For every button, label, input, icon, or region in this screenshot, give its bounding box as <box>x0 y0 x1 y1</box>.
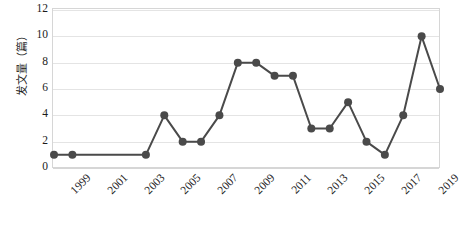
data-point-marker <box>215 111 223 119</box>
x-tick-label: 2009 <box>253 172 277 196</box>
plot-area <box>52 8 440 168</box>
data-point-marker <box>197 138 205 146</box>
x-tick-label: 2015 <box>363 172 387 196</box>
x-axis-tick-labels: 1999200120032005200720092011201320152017… <box>52 168 440 224</box>
y-tick-label: 8 <box>22 56 48 68</box>
x-tick-label: 2017 <box>400 172 424 196</box>
data-point-marker <box>326 125 334 133</box>
data-point-marker <box>234 59 242 67</box>
y-tick-label: 4 <box>22 109 48 121</box>
x-tick-label: 2005 <box>179 172 203 196</box>
y-tick-label: 2 <box>22 135 48 147</box>
y-tick-label: 10 <box>22 30 48 42</box>
data-point-marker <box>399 111 407 119</box>
x-tick-label: 2013 <box>326 172 350 196</box>
data-point-marker <box>68 151 76 159</box>
y-tick-label: 0 <box>22 161 48 173</box>
data-point-marker <box>271 72 279 80</box>
line-chart: 发文量（篇） 024681012 19992001200320052007200… <box>0 0 470 225</box>
x-tick-label: 2001 <box>105 172 129 196</box>
data-point-marker <box>289 72 297 80</box>
x-tick-label: 1999 <box>69 172 93 196</box>
x-tick-label: 2019 <box>436 172 460 196</box>
data-point-marker <box>252 59 260 67</box>
x-tick-label: 2007 <box>216 172 240 196</box>
series-polyline <box>54 36 440 154</box>
data-point-marker <box>418 32 426 40</box>
data-point-marker <box>179 138 187 146</box>
data-point-marker <box>344 98 352 106</box>
y-axis-tick-labels: 024681012 <box>22 8 48 168</box>
data-point-marker <box>307 125 315 133</box>
x-tick-label: 2003 <box>142 172 166 196</box>
data-point-marker <box>436 85 444 93</box>
data-point-marker <box>142 151 150 159</box>
data-point-marker <box>381 151 389 159</box>
y-tick-label: 12 <box>22 3 48 15</box>
y-tick-label: 6 <box>22 82 48 94</box>
data-series-line <box>53 9 439 167</box>
x-tick-label: 2011 <box>289 172 313 196</box>
data-point-marker <box>362 138 370 146</box>
data-point-marker <box>50 151 58 159</box>
data-point-marker <box>160 111 168 119</box>
